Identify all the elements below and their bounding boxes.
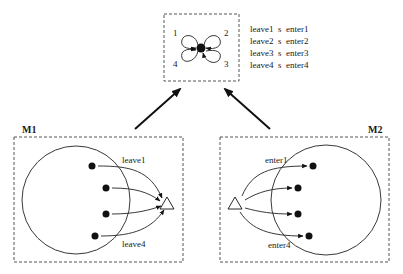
loop-2-icon [204, 36, 220, 49]
loop-label-3: 3 [224, 59, 229, 69]
left-transition-top-label: leave1 [122, 155, 145, 165]
loop-1-icon [182, 36, 198, 49]
diagram-canvas: 1 2 3 4 leave1 s enter1 leave2 s enter2 … [0, 0, 403, 274]
left-module: M1 leave1 leave4 [14, 124, 183, 262]
right-entry-triangle-icon [228, 197, 242, 209]
left-state-circle [22, 146, 130, 254]
leave3-arrow-icon [112, 206, 161, 214]
loop-4-icon [182, 49, 198, 61]
compose-arrow-left-icon [135, 89, 180, 129]
sync-rule-1: leave1 s enter1 [250, 24, 308, 34]
enter2-arrow-icon [245, 188, 292, 200]
left-state-dot-2 [103, 185, 110, 192]
left-state-dot-1 [89, 163, 96, 170]
right-module-label: M2 [368, 124, 382, 135]
top-module: 1 2 3 4 leave1 s enter1 leave2 s enter2 … [164, 14, 309, 81]
sync-rule-4: leave4 s enter4 [250, 60, 309, 70]
right-state-circle [271, 145, 381, 255]
loop-label-4: 4 [173, 59, 178, 69]
compose-arrow-right-icon [225, 89, 270, 129]
left-transition-bottom-label: leave4 [122, 239, 146, 249]
leave4-arrow-icon [101, 210, 164, 236]
right-transition-top-label: enter1 [265, 155, 288, 165]
enter3-arrow-icon [245, 208, 292, 214]
left-state-dot-3 [103, 211, 110, 218]
leave2-arrow-icon [112, 188, 160, 201]
left-exit-triangle-icon [160, 197, 174, 209]
loop-3-icon [203, 50, 220, 62]
right-state-dot-4 [306, 233, 313, 240]
sync-rule-3: leave3 s enter3 [250, 48, 309, 58]
enter4-arrow-icon [240, 212, 303, 236]
right-module: M2 enter1 enter4 [220, 124, 389, 262]
sync-rule-2: leave2 s enter2 [250, 36, 308, 46]
right-state-dot-2 [295, 185, 302, 192]
right-state-dot-3 [295, 211, 302, 218]
loop-label-1: 1 [173, 28, 178, 38]
left-module-label: M1 [22, 124, 36, 135]
right-state-dot-1 [310, 163, 317, 170]
right-transition-bottom-label: enter4 [268, 240, 291, 250]
loop-label-2: 2 [224, 28, 229, 38]
left-state-dot-4 [92, 233, 99, 240]
